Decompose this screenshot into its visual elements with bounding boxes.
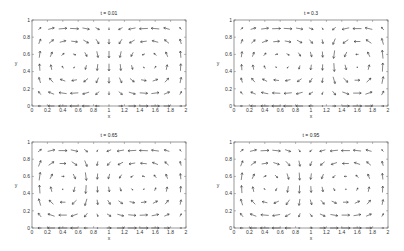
y-tick-label: 0.8 — [23, 156, 30, 162]
y-tick-label: 0.4 — [225, 68, 232, 74]
y-axis-label: y — [217, 60, 220, 66]
x-tick-label: 0.4 — [59, 229, 66, 235]
arrow — [109, 106, 110, 107]
x-tick-label: 1.6 — [152, 107, 159, 113]
arrow-head — [62, 189, 63, 190]
x-tick-label: 0.8 — [90, 107, 97, 113]
x-tick-label: 1.4 — [136, 107, 143, 113]
x-tick-label: 0.2 — [44, 229, 51, 235]
x-tick-label: 1.2 — [323, 107, 330, 113]
x-axis-label: x — [108, 235, 111, 241]
plot-title: t = 0.3 — [304, 10, 318, 16]
x-tick-label: 1.8 — [167, 107, 174, 113]
arrow — [70, 93, 78, 94]
arrow — [334, 63, 335, 71]
y-tick-label: 1 — [27, 139, 30, 145]
x-axis-label: x — [310, 235, 313, 241]
y-tick-label: 0.2 — [225, 208, 232, 214]
y-tick-label: 0 — [27, 103, 30, 109]
x-tick-label: 0.2 — [44, 107, 51, 113]
arrow-head — [346, 189, 347, 190]
y-tick-label: 0.2 — [23, 86, 30, 92]
x-tick-label: 1.8 — [369, 107, 376, 113]
y-tick-label: 0.8 — [225, 34, 232, 40]
arrow — [140, 93, 148, 94]
quiver-panel-2: t = 0.300.20.40.60.811.21.41.61.8200.20.… — [202, 0, 404, 125]
x-tick-label: 1.4 — [136, 229, 143, 235]
x-tick-label: 0.8 — [292, 107, 299, 113]
x-tick-label: 0.6 — [277, 107, 284, 113]
x-tick-label: 2 — [387, 107, 390, 113]
y-tick-label: 0.6 — [23, 173, 30, 179]
y-tick-label: 0.8 — [225, 156, 232, 162]
arrow — [86, 185, 87, 193]
x-tick-label: 0 — [31, 229, 34, 235]
x-tick-label: 0.2 — [246, 107, 253, 113]
x-tick-label: 0.6 — [75, 107, 82, 113]
quiver-plot: t = 0.300.20.40.60.811.21.41.61.8200.20.… — [202, 0, 404, 125]
y-tick-label: 0.6 — [23, 51, 30, 57]
arrow-head — [181, 228, 182, 229]
quiver-plot: t = 0.6500.20.40.60.811.21.41.61.8200.20… — [0, 122, 202, 251]
x-tick-label: 1.8 — [167, 229, 174, 235]
y-tick-label: 0 — [229, 225, 232, 231]
arrow-head — [357, 67, 358, 68]
y-tick-label: 0.4 — [23, 190, 30, 196]
x-tick-label: 0.4 — [59, 107, 66, 113]
quiver-plot: t = 0.9500.20.40.60.811.21.41.61.8200.20… — [202, 122, 404, 251]
x-tick-label: 0 — [233, 229, 236, 235]
x-tick-label: 1.2 — [323, 229, 330, 235]
y-axis-label: y — [217, 182, 220, 188]
arrow — [39, 185, 40, 193]
y-tick-label: 0.4 — [225, 190, 232, 196]
x-tick-label: 1.4 — [338, 107, 345, 113]
quiver-panel-4: t = 0.9500.20.40.60.811.21.41.61.8200.20… — [202, 122, 404, 251]
x-tick-label: 0.4 — [261, 107, 268, 113]
y-tick-label: 0.4 — [23, 68, 30, 74]
x-tick-label: 1.2 — [121, 229, 128, 235]
x-tick-label: 2 — [185, 107, 188, 113]
y-tick-label: 0 — [27, 225, 30, 231]
quiver-panel-1: t = 0.0100.20.40.60.811.21.41.61.8200.20… — [0, 0, 202, 125]
y-tick-label: 0.2 — [23, 208, 30, 214]
arrow-head — [299, 228, 300, 229]
plot-title: t = 0.01 — [101, 10, 118, 16]
x-tick-label: 0.6 — [277, 229, 284, 235]
quiver-panel-3: t = 0.6500.20.40.60.811.21.41.61.8200.20… — [0, 122, 202, 251]
plot-title: t = 0.65 — [101, 132, 118, 138]
x-tick-label: 2 — [185, 229, 188, 235]
y-tick-label: 0.8 — [23, 34, 30, 40]
x-axis-label: x — [310, 113, 313, 119]
y-tick-label: 1 — [229, 139, 232, 145]
x-tick-label: 1.6 — [354, 229, 361, 235]
x-tick-label: 0.2 — [246, 229, 253, 235]
y-tick-label: 0.6 — [225, 51, 232, 57]
x-tick-label: 0.8 — [90, 229, 97, 235]
x-tick-label: 1.8 — [369, 229, 376, 235]
y-tick-label: 1 — [229, 17, 232, 23]
x-tick-label: 1.2 — [121, 107, 128, 113]
y-tick-label: 1 — [27, 17, 30, 23]
plot-title: t = 0.95 — [303, 132, 320, 138]
x-tick-label: 1.6 — [152, 229, 159, 235]
x-tick-label: 0 — [31, 107, 34, 113]
quiver-plot: t = 0.0100.20.40.60.811.21.41.61.8200.20… — [0, 0, 202, 125]
x-tick-label: 0.4 — [261, 229, 268, 235]
y-tick-label: 0.6 — [225, 173, 232, 179]
x-tick-label: 0.6 — [75, 229, 82, 235]
x-axis-label: x — [108, 113, 111, 119]
x-tick-label: 1.4 — [338, 229, 345, 235]
y-axis-label: y — [15, 60, 18, 66]
x-tick-label: 0.8 — [292, 229, 299, 235]
y-axis-label: y — [15, 182, 18, 188]
y-tick-label: 0 — [229, 103, 232, 109]
x-tick-label: 0 — [233, 107, 236, 113]
x-tick-label: 2 — [387, 229, 390, 235]
y-tick-label: 0.2 — [225, 86, 232, 92]
x-tick-label: 1.6 — [354, 107, 361, 113]
